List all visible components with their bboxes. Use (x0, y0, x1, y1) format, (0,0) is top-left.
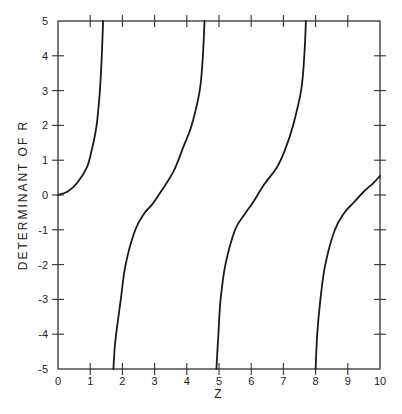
x-tick-label: 6 (248, 375, 254, 387)
x-tick-label: 1 (87, 375, 93, 387)
y-tick-label: -2 (38, 259, 48, 271)
y-tick-label: 2 (42, 119, 48, 131)
y-axis-ticks: -5-4-3-2-1012345 (38, 15, 386, 375)
x-tick-label: 8 (313, 375, 319, 387)
y-tick-label: 3 (42, 85, 48, 97)
y-tick-label: -5 (38, 363, 48, 375)
curve-branch-1 (58, 21, 103, 195)
x-tick-label: 3 (152, 375, 158, 387)
curve-branch-4 (316, 176, 380, 369)
x-tick-label: 0 (55, 375, 61, 387)
y-tick-label: -4 (38, 328, 48, 340)
x-tick-label: 4 (184, 375, 190, 387)
determinant-chart: 012345678910 -5-4-3-2-1012345 Z DETERMIN… (0, 0, 402, 414)
y-tick-label: -1 (38, 224, 48, 236)
y-tick-label: 4 (42, 50, 48, 62)
x-axis-title: Z (214, 387, 223, 401)
y-axis-title: DETERMINANT OF R (16, 120, 30, 270)
x-tick-label: 7 (280, 375, 286, 387)
y-tick-label: 0 (42, 189, 48, 201)
curve-branch-2 (113, 21, 204, 369)
x-axis-ticks: 012345678910 (55, 15, 386, 387)
y-tick-label: 5 (42, 15, 48, 27)
x-tick-label: 9 (345, 375, 351, 387)
x-tick-label: 2 (119, 375, 125, 387)
y-tick-label: 1 (42, 154, 48, 166)
x-tick-label: 5 (216, 375, 222, 387)
data-curves (58, 21, 380, 369)
curve-branch-3 (216, 21, 306, 369)
x-tick-label: 10 (374, 375, 386, 387)
y-tick-label: -3 (38, 293, 48, 305)
